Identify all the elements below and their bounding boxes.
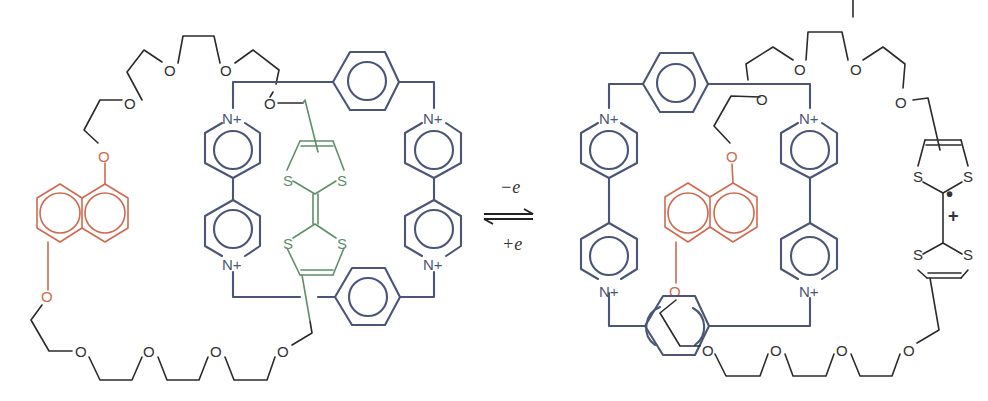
oxygen-label: O [726, 148, 738, 165]
left-top-polyether-chain [84, 36, 303, 143]
right-cyclobis-paraquat-box [581, 53, 837, 355]
sulfur-label: S [337, 235, 347, 252]
oxygen-label: O [210, 343, 222, 360]
pyridinium-n-label: N+ [423, 256, 443, 273]
pyridinium-n-label: N+ [799, 110, 819, 127]
diagram-canvas: O O O O O O O O O O [0, 0, 988, 401]
oxygen-label: O [220, 62, 232, 79]
reduction-label: +e [502, 234, 522, 254]
left-tetrathiafulvalene [287, 100, 344, 321]
oxygen-label: O [903, 342, 915, 359]
oxygen-label: O [756, 91, 768, 108]
right-tetrathiafulvalene-radical-cation [918, 140, 968, 278]
oxygen-label: O [836, 342, 848, 359]
left-cyclobis-paraquat-box [205, 52, 461, 325]
pyridinium-n-label: N+ [222, 110, 242, 127]
oxygen-label: O [41, 288, 53, 305]
sulfur-label: S [913, 168, 923, 185]
sulfur-label: S [337, 172, 347, 189]
oxygen-label: O [702, 342, 714, 359]
left-bottom-polyether-chain [31, 305, 312, 380]
sulfur-label: S [913, 246, 923, 263]
oxygen-label: O [75, 343, 87, 360]
pyridinium-n-label: N+ [599, 110, 619, 127]
pyridinium-n-label: N+ [423, 110, 443, 127]
oxygen-label: O [669, 283, 681, 300]
oxygen-label: O [895, 94, 907, 111]
sulfur-label: S [963, 246, 973, 263]
oxygen-label: O [264, 95, 276, 112]
oxygen-label: O [143, 343, 155, 360]
pyridinium-n-label: N+ [799, 283, 819, 300]
right-structure: O O O O O O [581, 0, 973, 376]
sulfur-label: S [283, 235, 293, 252]
oxygen-label: O [124, 95, 136, 112]
right-inner-chain [714, 96, 760, 183]
sulfur-label: S [283, 172, 293, 189]
left-structure: O O O O O O O O O O [31, 36, 461, 380]
right-top-polyether-chain [746, 32, 940, 150]
oxygen-label: O [164, 62, 176, 79]
pyridinium-n-label: N+ [599, 283, 619, 300]
oxygen-label: O [98, 148, 110, 165]
oxygen-label: O [794, 61, 806, 78]
pyridinium-n-label: N+ [222, 256, 242, 273]
oxygen-label: O [850, 61, 862, 78]
right-dioxynaphthalene [665, 183, 757, 283]
oxygen-label: O [277, 343, 289, 360]
oxygen-label: O [770, 342, 782, 359]
sulfur-label: S [963, 168, 973, 185]
radical-dot: • [946, 183, 953, 205]
cation-charge-label: + [948, 206, 959, 226]
oxidation-label: −e [500, 177, 520, 197]
left-dioxynaphthalene [37, 163, 128, 290]
equilibrium-arrows: −e +e [484, 177, 533, 254]
